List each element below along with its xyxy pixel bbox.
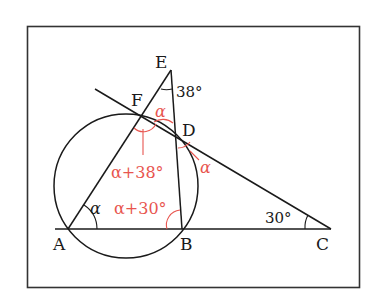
angle-value-e: 38° (176, 83, 203, 101)
label-point-d: D (182, 120, 196, 140)
frame-border (28, 27, 360, 288)
angle-value-abd: α+30° (114, 199, 167, 218)
angle-value-c: 30° (265, 209, 292, 227)
geometry-diagram: E F D A B C 38° 30° α α α+38° α+30° α (0, 0, 383, 294)
label-point-e: E (155, 52, 167, 72)
label-point-b: B (180, 234, 193, 254)
label-point-c: C (316, 234, 329, 254)
angle-value-cdb: α (200, 158, 211, 177)
angle-arc-afd (134, 124, 156, 132)
angle-value-afd: α+38° (111, 163, 164, 182)
circle (54, 114, 198, 258)
angle-arc-e (161, 89, 172, 90)
angle-arc-abd (166, 210, 180, 229)
angle-value-efd: α (155, 102, 166, 121)
label-point-f: F (131, 90, 143, 110)
angle-value-a: α (90, 199, 101, 218)
angle-arc-c (305, 215, 308, 229)
label-point-a: A (52, 234, 66, 254)
